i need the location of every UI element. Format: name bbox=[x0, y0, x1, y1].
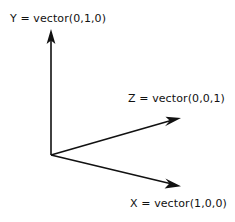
axes-vector-graphic bbox=[0, 0, 235, 222]
x-axis-label: X = vector(1,0,0) bbox=[130, 197, 227, 210]
y-axis-arrow bbox=[47, 29, 56, 155]
z-axis-label: Z = vector(0,0,1) bbox=[128, 92, 225, 105]
z-axis-arrow bbox=[51, 117, 181, 155]
axes-diagram: Y = vector(0,1,0) Z = vector(0,0,1) X = … bbox=[0, 0, 235, 222]
x-axis-arrow bbox=[51, 155, 181, 189]
y-axis-label: Y = vector(0,1,0) bbox=[10, 12, 106, 25]
